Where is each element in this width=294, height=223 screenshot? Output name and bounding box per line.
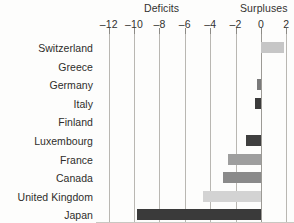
tickmark-2 [286,28,287,34]
category-label-finland: Finland [58,116,93,128]
bar-france [228,154,261,165]
category-label-germany: Germany [49,79,93,91]
bar-germany [257,79,261,90]
category-label-greece: Greece [58,61,93,73]
deficits-section-label: Deficits [144,2,179,14]
bar-united-kingdom [203,191,261,202]
gridline-neg10 [134,34,135,223]
bar-switzerland [261,42,284,53]
surpluses-section-label: Surpluses [240,2,288,14]
chart-header-band: Deficits Surpluses [0,0,294,18]
bar-japan [137,209,261,220]
gridline-neg8 [159,34,160,223]
tickmark-neg10 [134,28,135,34]
tickmark-neg4 [210,28,211,34]
gridline-2 [286,34,287,223]
deficits-surpluses-bar-chart: Deficits Surpluses –12–10–8–6–4–202 Swit… [0,0,294,223]
bar-italy [255,98,261,109]
bar-canada [223,172,261,183]
tickmark-neg6 [185,28,186,34]
tickmark-neg12 [109,28,110,34]
category-label-luxembourg: Luxembourg [34,135,93,147]
tickmark-0 [261,28,262,34]
tickmark-neg8 [159,28,160,34]
tickmark-neg2 [236,28,237,34]
gridline-neg12 [109,34,110,223]
plot-baseline [96,222,294,223]
category-label-italy: Italy [73,98,93,110]
x-axis-tick-labels: –12–10–8–6–4–202 [0,18,294,34]
category-label-canada: Canada [56,172,93,184]
category-label-column: SwitzerlandGreeceGermanyItalyFinlandLuxe… [0,36,96,223]
category-label-japan: Japan [64,209,93,221]
category-label-france: France [60,154,93,166]
category-label-united-kingdom: United Kingdom [18,191,93,203]
bar-luxembourg [246,135,261,146]
gridline-neg6 [185,34,186,223]
gridline-0 [261,34,262,223]
category-label-switzerland: Switzerland [38,42,93,54]
plot-area [96,34,294,223]
